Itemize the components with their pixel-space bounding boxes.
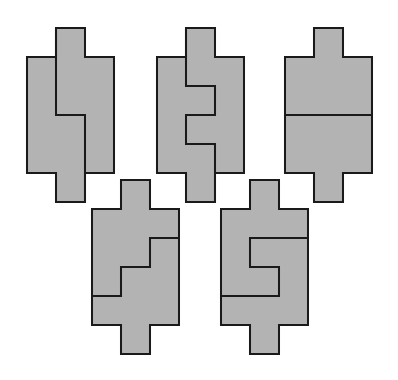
shape-4 (92, 180, 179, 354)
shape-5 (221, 180, 308, 354)
shape-1 (27, 28, 114, 202)
shape-2 (157, 28, 244, 202)
shape-3 (285, 28, 372, 202)
puzzle-figure (0, 0, 398, 380)
